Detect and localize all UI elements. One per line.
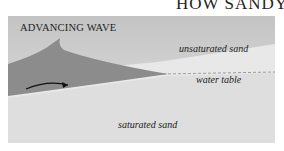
advancing-wave-diagram: ADVANCING WAVE unsaturated sand water ta…: [8, 16, 275, 143]
saturated-sand-label: saturated sand: [118, 119, 177, 130]
page-title-fragment: HOW SANDY B: [176, 0, 284, 14]
diagram-title: ADVANCING WAVE: [20, 22, 116, 33]
water-table-label: water table: [196, 74, 241, 85]
unsaturated-sand-label: unsaturated sand: [179, 43, 248, 54]
